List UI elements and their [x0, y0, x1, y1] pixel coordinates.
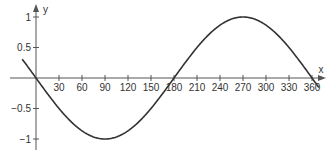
- y-tick-label: 0.5: [17, 42, 31, 53]
- x-tick-label: 60: [76, 82, 88, 93]
- y-tick-label: 1: [25, 12, 31, 23]
- x-tick-label: 180: [166, 82, 183, 93]
- x-axis-arrow-icon: [318, 75, 326, 81]
- x-tick-label: 120: [120, 82, 137, 93]
- x-tick-label: 150: [143, 82, 160, 93]
- x-tick-label: 270: [235, 82, 252, 93]
- y-tick-label: −0.5: [11, 103, 31, 114]
- x-tick-label: 300: [258, 82, 275, 93]
- x-axis-label: x: [319, 64, 324, 75]
- sine-chart: xy 30609012015018021024027030033036010.5…: [0, 0, 336, 153]
- y-axis-arrow-icon: [33, 4, 39, 12]
- axes: xy: [10, 4, 326, 150]
- y-axis-label: y: [43, 4, 48, 15]
- x-tick-label: 330: [281, 82, 298, 93]
- x-tick-label: 90: [99, 82, 111, 93]
- y-tick-label: −1: [20, 134, 32, 145]
- x-tick-label: 210: [189, 82, 206, 93]
- x-tick-label: 240: [212, 82, 229, 93]
- x-tick-label: 30: [53, 82, 65, 93]
